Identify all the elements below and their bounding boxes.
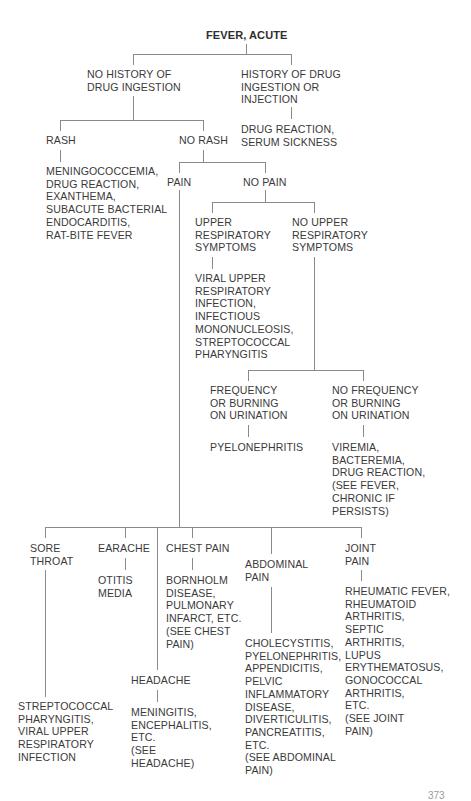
node-rash: RASH <box>46 134 76 147</box>
node-headache-diagnoses: MENINGITIS, ENCEPHALITIS, ETC. (SEE HEAD… <box>131 706 212 770</box>
connector <box>361 527 362 538</box>
node-abdominal-pain: ABDOMINAL PAIN <box>245 558 308 583</box>
node-earache: EARACHE <box>98 542 150 555</box>
connector <box>314 370 363 371</box>
connector <box>212 257 213 269</box>
connector <box>179 190 180 527</box>
node-sore-throat-diagnoses: STREPTOCOCCAL PHARYNGITIS, VIRAL UPPER R… <box>18 700 113 764</box>
connector <box>45 527 361 528</box>
node-abdominal-pain-diagnoses: CHOLECYSTITIS, PYELONEPHRITIS, APPENDICI… <box>245 637 341 777</box>
connector <box>363 370 364 381</box>
node-frequency-diagnosis: PYELONEPHRITIS <box>210 441 303 454</box>
node-sore-throat: SORE THROAT <box>30 542 73 567</box>
connector <box>179 162 180 173</box>
connector <box>203 120 204 131</box>
connector <box>45 570 46 697</box>
connector <box>271 527 272 554</box>
connector <box>60 120 61 131</box>
node-pain: PAIN <box>167 176 191 189</box>
connector <box>133 54 291 55</box>
connector <box>314 202 315 213</box>
connector <box>157 527 158 670</box>
node-earache-diagnosis: OTITIS MEDIA <box>98 574 133 599</box>
connector <box>248 370 249 381</box>
connector <box>248 370 314 371</box>
node-drug-history: HISTORY OF DRUG INGESTION OR INJECTION <box>241 68 341 106</box>
connector <box>291 54 292 65</box>
node-rash-diagnoses: MENINGOCOCCEMIA, DRUG REACTION, EXANTHEM… <box>46 165 167 241</box>
connector <box>157 690 158 702</box>
connector <box>179 162 265 163</box>
node-no-frequency-diagnoses: VIREMIA, BACTEREMIA, DRUG REACTION, (SEE… <box>332 441 425 517</box>
page-number: 373 <box>428 790 445 801</box>
node-joint-pain: JOINT PAIN <box>345 542 376 567</box>
connector <box>271 587 272 633</box>
connector <box>291 107 292 119</box>
connector <box>361 570 362 581</box>
connector <box>133 96 134 120</box>
connector <box>45 527 46 538</box>
connector <box>60 120 203 121</box>
connector <box>125 527 126 538</box>
node-no-rash: NO RASH <box>179 134 228 147</box>
node-no-frequency: NO FREQUENCY OR BURNING ON URINATION <box>332 384 419 422</box>
node-no-drug-history: NO HISTORY OF DRUG INGESTION <box>87 68 181 93</box>
connector <box>246 44 247 54</box>
node-headache: HEADACHE <box>131 674 191 687</box>
connector <box>265 162 266 173</box>
connector <box>192 527 193 538</box>
connector <box>212 202 314 203</box>
diagram-title: FEVER, ACUTE <box>206 29 287 42</box>
connector <box>133 54 134 65</box>
connector <box>192 558 193 570</box>
node-upper-respiratory-diagnoses: VIRAL UPPER RESPIRATORY INFECTION, INFEC… <box>195 272 294 361</box>
connector <box>265 190 266 202</box>
connector <box>125 558 126 570</box>
node-chest-pain-diagnoses: BORNHOLM DISEASE, PULMONARY INFARCT, ETC… <box>166 574 241 650</box>
connector <box>203 150 204 162</box>
connector <box>363 425 364 437</box>
node-drug-reaction: DRUG REACTION, SERUM SICKNESS <box>241 123 337 148</box>
connector <box>248 425 249 437</box>
node-joint-pain-diagnoses: RHEUMATIC FEVER, RHEUMATOID ARTHRITIS, S… <box>345 585 450 737</box>
node-chest-pain: CHEST PAIN <box>166 542 230 555</box>
node-upper-respiratory: UPPER RESPIRATORY SYMPTOMS <box>195 216 271 254</box>
node-frequency: FREQUENCY OR BURNING ON URINATION <box>210 384 288 422</box>
connector <box>314 257 315 370</box>
node-no-upper-respiratory: NO UPPER RESPIRATORY SYMPTOMS <box>292 216 368 254</box>
node-no-pain: NO PAIN <box>243 176 286 189</box>
connector <box>60 150 61 162</box>
connector <box>212 202 213 213</box>
